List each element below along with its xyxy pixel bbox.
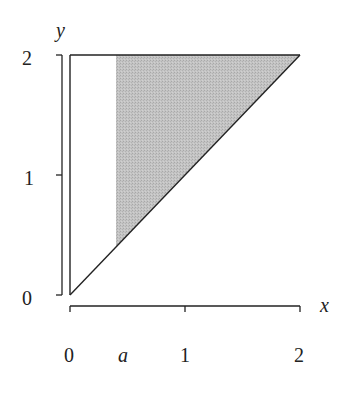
x-tick-label-1: 1	[180, 344, 190, 366]
region-diagram: y x 2 1 0 0 a 1 2	[0, 0, 348, 393]
y-tick-label-1: 1	[24, 167, 34, 189]
x-tick-label-2: 2	[294, 344, 304, 366]
x-axis	[70, 306, 300, 312]
y-axis-label: y	[54, 19, 65, 42]
x-tick-label-a: a	[118, 344, 128, 366]
y-tick-label-2: 2	[22, 47, 32, 69]
y-tick-label-0: 0	[22, 287, 32, 309]
x-axis-label: x	[319, 294, 329, 316]
x-tick-label-0: 0	[64, 344, 74, 366]
y-axis	[56, 55, 62, 295]
